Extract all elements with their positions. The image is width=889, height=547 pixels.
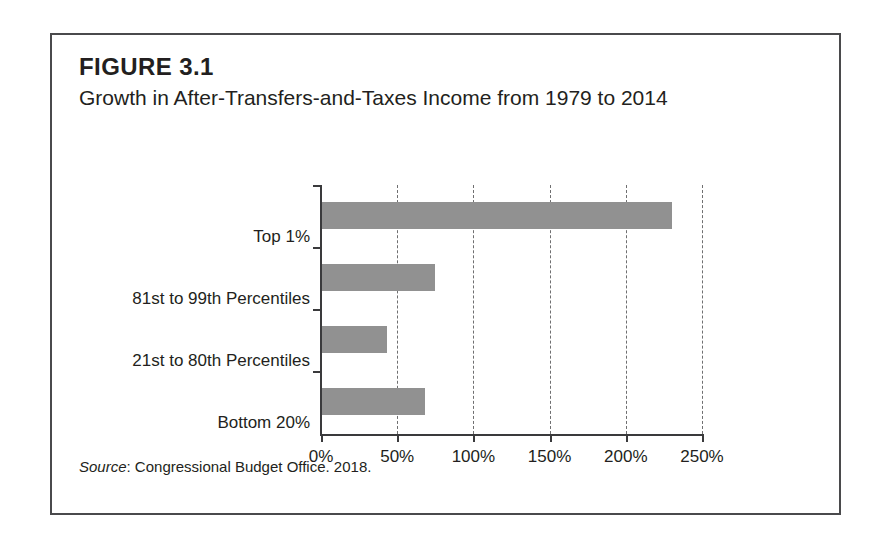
x-axis-line	[320, 434, 702, 436]
bar-top-1	[321, 202, 672, 229]
page-canvas: FIGURE 3.1 Growth in After-Transfers-and…	[0, 0, 889, 547]
gridline-250	[702, 185, 703, 434]
y-tick-3	[313, 371, 321, 373]
x-tick-label-250: 250%	[680, 447, 723, 467]
x-tick-label-100: 100%	[452, 447, 495, 467]
source-note: Source: Congressional Budget Office. 201…	[79, 458, 371, 475]
x-tick-label-200: 200%	[604, 447, 647, 467]
figure-frame: FIGURE 3.1 Growth in After-Transfers-and…	[50, 33, 841, 515]
category-label-bottom-20: Bottom 20%	[52, 413, 310, 433]
x-tick-250	[702, 434, 704, 442]
plot-area: 0% 50% 100% 150% 200% 250%	[321, 185, 702, 434]
category-label-21st-80th: 21st to 80th Percentiles	[52, 351, 310, 371]
bar-chart: Top 1% 81st to 99th Percentiles 21st to …	[52, 35, 843, 517]
x-tick-200	[626, 434, 628, 442]
source-text: : Congressional Budget Office. 2018.	[127, 458, 372, 475]
x-tick-150	[550, 434, 552, 442]
x-tick-100	[473, 434, 475, 442]
x-tick-label-50: 50%	[380, 447, 414, 467]
bar-bottom-20	[321, 388, 425, 415]
category-label-top-1: Top 1%	[52, 227, 310, 247]
category-label-81st-99th: 81st to 99th Percentiles	[52, 289, 310, 309]
x-tick-label-150: 150%	[528, 447, 571, 467]
y-tick-0	[313, 185, 321, 187]
y-tick-1	[313, 247, 321, 249]
source-label: Source	[79, 458, 127, 475]
x-tick-0	[321, 434, 323, 442]
bar-21st-80th	[321, 326, 387, 353]
bar-81st-99th	[321, 264, 435, 291]
x-tick-50	[397, 434, 399, 442]
y-tick-2	[313, 309, 321, 311]
